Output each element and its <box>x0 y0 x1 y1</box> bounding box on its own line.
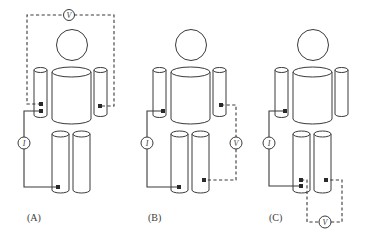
panel-label: (C) <box>269 212 282 224</box>
electrode <box>219 103 223 107</box>
segmental-bioimpedance-diagram: V I (A) I V (B) <box>0 0 369 239</box>
electrode <box>299 178 303 182</box>
body-figure <box>34 30 107 194</box>
panel-label: (A) <box>27 212 41 224</box>
electrode <box>98 104 102 108</box>
electrode <box>202 178 206 182</box>
electrode <box>39 102 43 106</box>
electrode <box>161 109 165 113</box>
electrode <box>283 109 287 113</box>
ammeter-symbol: I <box>145 139 149 148</box>
electrode <box>299 184 303 188</box>
electrode <box>56 185 60 189</box>
panel-c: I V (C) <box>263 30 348 229</box>
ammeter-symbol: I <box>22 139 26 148</box>
electrode <box>177 185 181 189</box>
electrode <box>324 178 328 182</box>
electrode <box>39 109 43 113</box>
ammeter-symbol: I <box>267 139 271 148</box>
panel-label: (B) <box>148 212 161 224</box>
panel-a: V I (A) <box>18 10 114 225</box>
panel-b: I V (B) <box>141 30 242 225</box>
